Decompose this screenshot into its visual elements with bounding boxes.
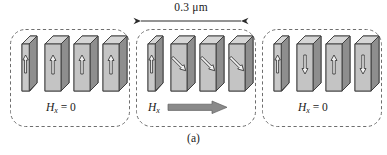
nanomagnet-bar-1 bbox=[22, 36, 37, 91]
field-subscript-middle: x bbox=[156, 106, 160, 115]
field-label-middle: Hx bbox=[148, 101, 160, 115]
magnetization-diagram-figure: 0.3 μm Hx = 0 Hx Hx = 0 (a) bbox=[0, 0, 387, 155]
field-value-left: = 0 bbox=[61, 101, 76, 113]
nanomagnet-bar-2 bbox=[45, 36, 69, 91]
dimension-label: 0.3 μm bbox=[141, 1, 241, 13]
nanomagnet-bar-3 bbox=[74, 36, 98, 91]
nanomagnet-bar-1 bbox=[274, 36, 289, 91]
field-value-right: = 0 bbox=[313, 101, 328, 113]
field-label-right: Hx = 0 bbox=[298, 101, 328, 115]
nanomagnet-bar-4 bbox=[103, 36, 127, 91]
nanomagnet-bar-1 bbox=[148, 36, 163, 91]
nanomagnet-bar-2 bbox=[170, 36, 195, 91]
panel-middle-bars bbox=[148, 36, 253, 91]
figure-caption: (a) bbox=[0, 132, 387, 144]
field-label-left: Hx = 0 bbox=[46, 101, 76, 115]
nanomagnet-bar-3 bbox=[326, 36, 350, 91]
field-subscript-right: x bbox=[306, 106, 310, 115]
panel-left-bars bbox=[22, 36, 127, 91]
nanomagnet-bar-3 bbox=[199, 36, 224, 91]
nanomagnet-bar-4 bbox=[355, 36, 379, 91]
nanomagnet-bar-4 bbox=[228, 36, 253, 91]
field-subscript-left: x bbox=[54, 106, 58, 115]
nanomagnet-bar-2 bbox=[297, 36, 321, 91]
panel-right-bars bbox=[274, 36, 379, 91]
applied-field-arrow bbox=[168, 101, 227, 114]
